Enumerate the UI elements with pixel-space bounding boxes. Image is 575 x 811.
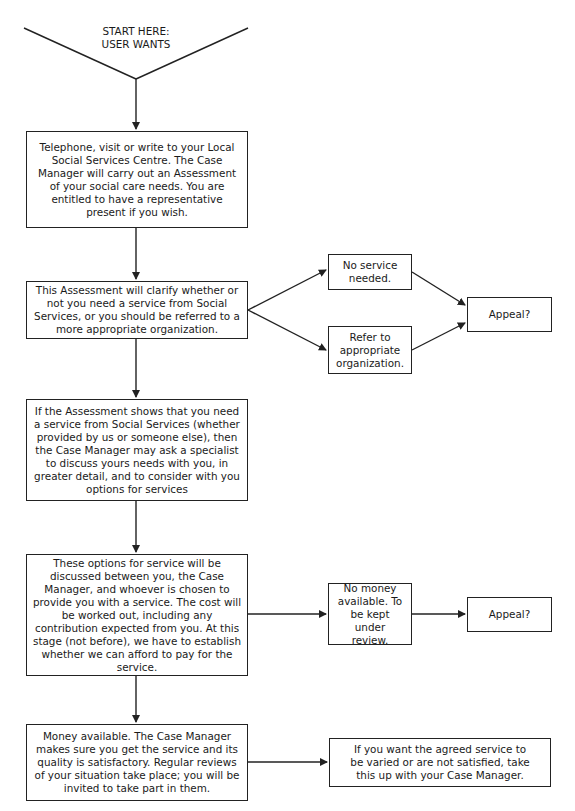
vary-service-box: If you want the agreed service to be var… xyxy=(329,738,551,787)
no-service-text: No service needed. xyxy=(339,259,401,285)
refer-text: Refer to appropriate organization. xyxy=(333,331,407,370)
appeal-text-1: Appeal? xyxy=(489,308,530,321)
no-service-box: No service needed. xyxy=(328,254,412,290)
start-line-2: USER WANTS xyxy=(102,38,171,50)
money-available-text: Money available. The Case Manager makes … xyxy=(31,730,243,795)
start-label: START HERE: USER WANTS xyxy=(86,25,186,51)
appeal-text-2: Appeal? xyxy=(489,608,530,621)
contact-step-text: Telephone, visit or write to your Local … xyxy=(35,141,239,219)
options-step-box: These options for service will be discus… xyxy=(26,554,248,676)
specialist-step-text: If the Assessment shows that you need a … xyxy=(31,405,243,496)
no-money-box: No money available. To be kept under rev… xyxy=(328,583,412,645)
no-money-text: No money available. To be kept under rev… xyxy=(335,582,405,647)
money-available-box: Money available. The Case Manager makes … xyxy=(26,724,248,801)
assessment-step-box: This Assessment will clarify whether or … xyxy=(26,281,248,339)
assessment-step-text: This Assessment will clarify whether or … xyxy=(33,284,241,336)
appeal-box-2: Appeal? xyxy=(467,597,552,632)
contact-step-box: Telephone, visit or write to your Local … xyxy=(26,131,248,228)
start-line-1: START HERE: xyxy=(102,25,169,37)
appeal-box-1: Appeal? xyxy=(467,297,552,332)
vary-service-text: If you want the agreed service to be var… xyxy=(350,743,530,782)
refer-box: Refer to appropriate organization. xyxy=(328,326,412,374)
specialist-step-box: If the Assessment shows that you need a … xyxy=(26,399,248,501)
options-step-text: These options for service will be discus… xyxy=(31,557,243,674)
